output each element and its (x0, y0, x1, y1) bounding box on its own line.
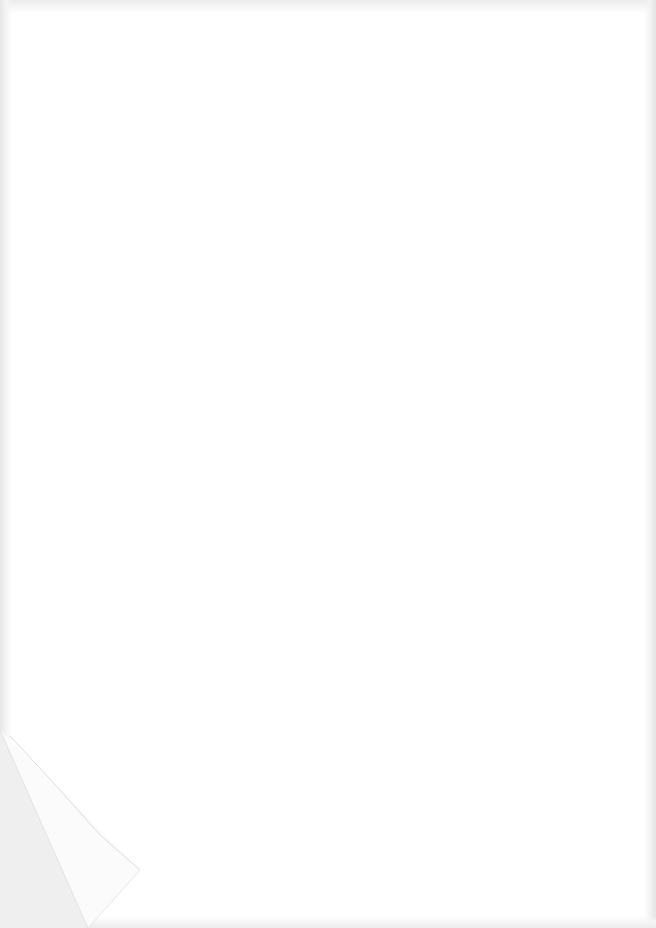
folded-corner (0, 700, 260, 928)
blank-page (0, 0, 656, 928)
page-edge-top (0, 0, 656, 14)
page-edge-right (644, 0, 656, 928)
